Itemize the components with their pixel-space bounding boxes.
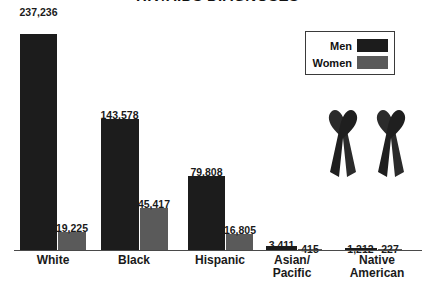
awareness-ribbon-icon xyxy=(322,108,364,180)
bar-men-white[interactable] xyxy=(20,34,57,250)
legend-label-women: Women xyxy=(312,57,352,69)
awareness-ribbon-icon xyxy=(370,108,412,180)
x-axis-line xyxy=(14,250,422,251)
value-label-women-white: 19,225 xyxy=(46,222,98,234)
legend-label-men: Men xyxy=(330,40,352,52)
legend-swatch-women xyxy=(357,56,388,69)
chart-title-clipped: HIV/AIDS DIAGNOSES xyxy=(110,0,325,5)
value-label-men-white: 237,236 xyxy=(8,6,69,18)
chart-title: HIV/AIDS DIAGNOSES xyxy=(110,0,325,4)
x-label-asian-pacific: Asian/ Pacific xyxy=(256,254,328,280)
x-label-native-american: Native American xyxy=(337,254,417,280)
x-label-white: White xyxy=(17,254,89,267)
x-label-black: Black xyxy=(98,254,170,267)
ribbon-decoration-group xyxy=(322,108,418,180)
bar-chart: HIV/AIDS DIAGNOSES 237,236 19,225 143,57… xyxy=(0,0,434,288)
value-label-women-hispanic: 16,805 xyxy=(214,224,266,236)
legend-item-men[interactable]: Men xyxy=(330,39,388,52)
value-label-men-hispanic: 79,808 xyxy=(176,166,237,178)
bar-men-hispanic[interactable] xyxy=(188,176,225,250)
bar-women-hispanic[interactable] xyxy=(226,234,253,250)
x-label-hispanic: Hispanic xyxy=(184,254,256,267)
bar-men-black[interactable] xyxy=(101,119,139,250)
bar-women-black[interactable] xyxy=(140,208,168,250)
legend: Men Women xyxy=(305,31,395,75)
value-label-men-black: 143,578 xyxy=(89,109,150,121)
value-label-women-black: 45,417 xyxy=(128,198,180,210)
legend-swatch-men xyxy=(357,39,388,52)
bar-women-white[interactable] xyxy=(58,232,86,250)
legend-item-women[interactable]: Women xyxy=(312,56,388,69)
